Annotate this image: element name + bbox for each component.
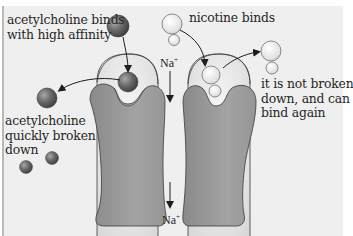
right-receptor-subunit — [183, 54, 256, 236]
bound-acetylcholine — [118, 72, 138, 92]
label-acetylcholine-broken-down: acetylcholine quickly broken down — [5, 114, 96, 158]
label-nicotine-not-broken: it is not broken down, and can bind agai… — [261, 77, 353, 121]
sodium-ion-top: Na+ — [160, 56, 178, 71]
nicotine-molecule — [162, 14, 182, 46]
released-acetylcholine — [37, 88, 57, 108]
sodium-ion-bottom: Na+ — [162, 213, 180, 228]
released-nicotine — [261, 41, 281, 74]
label-nicotine-binds: nicotine binds — [189, 11, 275, 26]
acetylcholine-fragment — [20, 161, 33, 174]
label-acetylcholine-binds: acetylcholine binds with high affinity — [7, 13, 125, 42]
